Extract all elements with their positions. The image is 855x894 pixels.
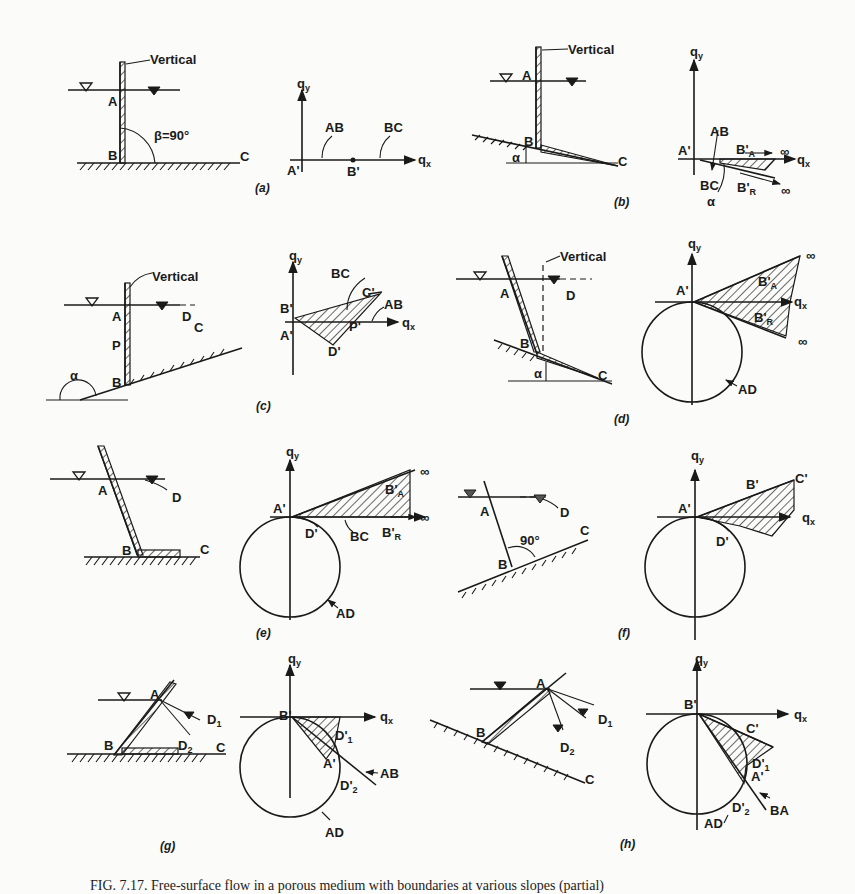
label-A: A <box>98 483 108 498</box>
label-C: C <box>240 149 250 164</box>
panel-c: Vertical A P B C D α qy qx B' A' C' P' D… <box>46 248 415 413</box>
label-B-prime: B' <box>279 708 291 723</box>
label-D2: D2 <box>560 740 574 757</box>
water-table-icon <box>156 302 168 310</box>
label-B: B <box>498 557 507 572</box>
panel-d: Vertical A D B C α qy qx A' B'A B'R ∞ ∞ … <box>456 236 815 426</box>
label-B: B <box>476 725 485 740</box>
label-B-prime: B' <box>280 301 292 316</box>
label-D1: D1 <box>207 712 221 729</box>
label-qy: qy <box>288 651 301 668</box>
label-qy: qy <box>691 448 704 465</box>
label-B: B <box>524 134 533 149</box>
caption-f: (f) <box>618 626 630 640</box>
label-A: A <box>536 676 546 691</box>
label-C: C <box>618 154 628 169</box>
label-D: D <box>182 309 191 324</box>
label-infinity-1: ∞ <box>420 464 429 479</box>
label-BC: BC <box>384 120 403 135</box>
label-qx: qx <box>797 152 810 169</box>
hodograph-b: qy qx A' AB BC B'A B'R ∞ ∞ α (b) <box>614 44 810 209</box>
caption-b: (b) <box>614 195 629 209</box>
label-vertical: Vertical <box>150 52 196 67</box>
water-table-icon <box>566 78 578 86</box>
label-B: B <box>122 543 131 558</box>
hodograph-h: qy qx B' C' A' D'1 D'2 BA AD (h) <box>620 651 807 851</box>
panel-a: Vertical A B C β=90° qy qx A' B' AB BC (… <box>68 52 431 195</box>
panel-h: A B C D1 D2 qy qx B' C' A' D'1 D'2 BA AD… <box>430 651 807 851</box>
label-qy: qy <box>289 248 302 265</box>
hodograph-g: qy qx B' A' D'1 D'2 AB AD (g) <box>160 651 399 853</box>
label-D: D <box>566 288 575 303</box>
label-A: A <box>112 309 122 324</box>
label-A-prime: A' <box>676 283 688 298</box>
label-AB: AB <box>380 766 399 781</box>
label-A: A <box>108 94 118 109</box>
label-B-prime-R: B'R <box>382 525 401 542</box>
caption-g: (g) <box>160 839 175 853</box>
label-qx: qx <box>418 152 431 169</box>
water-table-icon <box>553 725 563 732</box>
physical-plane-e: A D B C <box>50 446 210 565</box>
label-D-prime: D' <box>328 344 340 359</box>
label-C: C <box>580 523 590 538</box>
label-P: P <box>112 338 121 353</box>
label-D-prime: D' <box>305 526 317 541</box>
label-qy: qy <box>690 44 703 61</box>
physical-plane-b: Vertical A B C α <box>472 42 628 169</box>
label-B-prime-A: B'A <box>736 142 755 159</box>
label-C: C <box>200 542 210 557</box>
physical-plane-f: A D B C 90° <box>458 481 590 598</box>
label-AD: AD <box>738 382 757 397</box>
label-D2-prime: D'2 <box>340 778 358 795</box>
label-C-prime: C' <box>362 285 374 300</box>
hodograph-a: qy qx A' B' AB BC (a) <box>255 76 431 195</box>
water-table-icon <box>148 87 160 95</box>
label-infinity-2: ∞ <box>781 183 790 198</box>
panel-f: A D B C 90° qy qx A' B' C' D' (f) <box>458 448 815 640</box>
label-C: C <box>585 772 595 787</box>
label-D-prime: D' <box>716 534 728 549</box>
label-D2: D2 <box>178 738 192 755</box>
label-AB: AB <box>325 120 344 135</box>
label-alpha: α <box>534 366 542 381</box>
label-B: B <box>108 148 117 163</box>
label-BC: BC <box>700 178 719 193</box>
label-90-degrees: 90° <box>520 533 540 548</box>
label-B-prime: B' <box>347 164 359 179</box>
label-infinity-2: ∞ <box>420 510 429 525</box>
label-A: A <box>150 687 160 702</box>
label-B: B <box>104 738 113 753</box>
label-D: D <box>172 490 181 505</box>
label-B: B <box>520 336 529 351</box>
label-AB: AB <box>710 124 729 139</box>
label-C-prime: C' <box>746 721 758 736</box>
label-C: C <box>216 740 226 755</box>
label-D1-prime: D'1 <box>335 728 353 745</box>
label-qy: qy <box>297 76 310 93</box>
physical-plane-d: Vertical A D B C α <box>456 249 612 384</box>
water-table-icon <box>548 276 560 284</box>
label-qx: qx <box>794 294 807 311</box>
label-BC: BC <box>350 529 369 544</box>
label-A: A <box>480 504 490 519</box>
label-P-prime: P' <box>349 319 361 334</box>
label-A-prime: A' <box>678 501 690 516</box>
hodograph-c: qy qx B' A' C' P' D' BC AB (c) <box>256 248 415 413</box>
label-BA: BA <box>770 803 789 818</box>
caption-a: (a) <box>255 181 270 195</box>
label-D1: D1 <box>598 712 612 729</box>
label-C: C <box>194 320 204 335</box>
label-B-prime: B' <box>746 477 758 492</box>
label-vertical: Vertical <box>152 269 198 284</box>
physical-plane-c: Vertical A P B C D α <box>46 269 242 400</box>
label-A-prime: A' <box>751 769 763 784</box>
hodograph-d: qy qx A' B'A B'R ∞ ∞ AD (d) <box>614 236 815 426</box>
label-qx: qx <box>402 315 415 332</box>
water-table-icon <box>184 712 194 719</box>
panel-b: Vertical A B C α qy qx A' AB BC B'A B'R … <box>472 42 810 209</box>
label-alpha: α <box>512 150 520 165</box>
label-qx: qx <box>794 707 807 724</box>
label-alpha-hodo: α <box>707 194 715 209</box>
